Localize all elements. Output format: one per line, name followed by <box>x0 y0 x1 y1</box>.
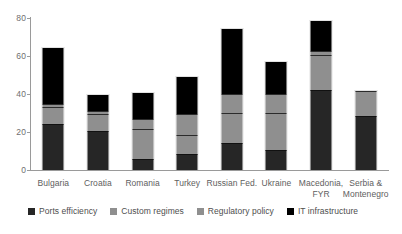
chart-legend: Ports efficiencyCustom regimesRegulatory… <box>28 207 378 216</box>
bar-segment <box>221 143 242 170</box>
bar-segment <box>132 129 153 158</box>
stacked-bar[interactable] <box>176 76 199 170</box>
bar-segment <box>311 90 332 170</box>
legend-item[interactable]: Ports efficiency <box>28 207 97 216</box>
x-axis-tick-label: Serbia &Montenegro <box>337 178 394 199</box>
plot-area <box>31 18 388 170</box>
x-axis-tick-label-line: Serbia & <box>337 178 394 189</box>
bar-group <box>76 18 121 170</box>
x-axis-line <box>30 170 389 171</box>
bar-segment <box>177 135 198 154</box>
legend-item[interactable]: IT infrastructure <box>287 207 358 216</box>
y-axis-tick-label: 20 <box>16 128 26 137</box>
stacked-bar[interactable] <box>42 47 65 170</box>
legend-swatch-icon <box>197 208 204 215</box>
legend-label: Regulatory policy <box>208 207 274 216</box>
y-axis-tick-label: 40 <box>16 90 26 99</box>
bar-segment <box>221 29 242 94</box>
bar-segment <box>132 159 153 170</box>
bar-group <box>299 18 344 170</box>
y-axis-tick-label: 80 <box>16 14 26 23</box>
bar-segment <box>311 21 332 51</box>
bar-segment <box>311 55 332 90</box>
bar-segment <box>132 119 153 129</box>
legend-swatch-icon <box>28 208 35 215</box>
stacked-bar[interactable] <box>354 90 377 170</box>
bar-segment <box>43 124 64 170</box>
bar-segment <box>266 62 287 94</box>
bar-group <box>343 18 388 170</box>
legend-swatch-icon <box>110 208 117 215</box>
bar-segment <box>43 48 64 104</box>
bar-segment <box>355 116 376 170</box>
bar-segment <box>87 131 108 170</box>
bar-segment <box>266 94 287 113</box>
bar-group <box>165 18 210 170</box>
legend-swatch-icon <box>287 208 294 215</box>
bar-segment <box>177 154 198 170</box>
bar-segment <box>355 91 376 116</box>
stacked-bar[interactable] <box>86 94 109 170</box>
stacked-bar-chart: 020406080 BulgariaCroatiaRomaniaTurkeyRu… <box>0 0 402 234</box>
bar-segment <box>221 94 242 113</box>
legend-item[interactable]: Custom regimes <box>110 207 184 216</box>
bar-segment <box>132 93 153 119</box>
y-axis-tick-mark <box>27 170 31 171</box>
bar-segment <box>177 114 198 135</box>
y-axis-tick-label: 0 <box>21 166 26 175</box>
y-axis-tick-label: 60 <box>16 52 26 61</box>
bar-group <box>210 18 255 170</box>
bar-segment <box>221 113 242 143</box>
bar-segment <box>43 107 64 124</box>
bar-segment <box>266 113 287 150</box>
x-axis-tick-label-line: Montenegro <box>337 189 394 200</box>
legend-label: IT infrastructure <box>298 207 358 216</box>
bar-segment <box>87 114 108 131</box>
y-axis-ticks: 020406080 <box>0 0 26 234</box>
stacked-bar[interactable] <box>265 61 288 170</box>
stacked-bar[interactable] <box>310 20 333 170</box>
bar-group <box>31 18 76 170</box>
bar-segment <box>177 77 198 114</box>
stacked-bar[interactable] <box>131 92 154 170</box>
legend-item[interactable]: Regulatory policy <box>197 207 274 216</box>
bar-segment <box>87 95 108 111</box>
bar-group <box>254 18 299 170</box>
bar-segment <box>266 150 287 170</box>
legend-label: Custom regimes <box>121 207 184 216</box>
stacked-bar[interactable] <box>220 28 243 170</box>
bar-group <box>120 18 165 170</box>
legend-label: Ports efficiency <box>39 207 97 216</box>
